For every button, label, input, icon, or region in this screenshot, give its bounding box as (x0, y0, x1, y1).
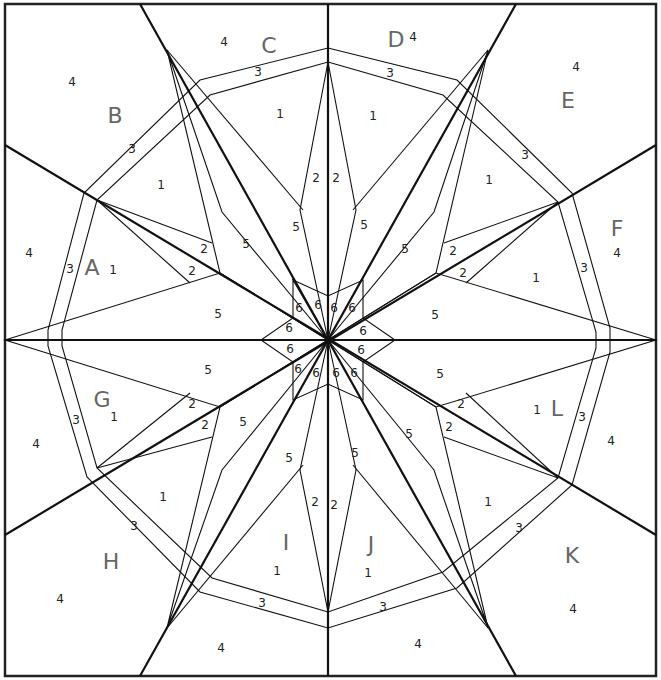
piece-number: 5 (239, 416, 247, 428)
section-label: D (388, 29, 405, 51)
piece-number: 5 (431, 309, 439, 321)
piece-number: 1 (159, 491, 167, 503)
piece-number: 6 (348, 302, 356, 314)
piece-number: 5 (401, 243, 409, 255)
piece-number: 4 (607, 435, 615, 447)
piece-number: 2 (457, 398, 465, 410)
piece-number: 3 (128, 143, 136, 155)
section-label: G (93, 389, 110, 411)
piece-number: 1 (109, 264, 117, 276)
piece-number: 2 (201, 419, 209, 431)
piece-number: 6 (285, 322, 293, 334)
piece-number: 2 (188, 398, 196, 410)
piece-number: 3 (386, 67, 394, 79)
piece-number: 3 (580, 262, 588, 274)
piece-number: 6 (294, 363, 302, 375)
section-seams (5, 4, 656, 676)
piece-number: 2 (200, 243, 208, 255)
piece-number: 3 (521, 149, 529, 161)
piece-number: 2 (311, 496, 319, 508)
piece-number: 1 (276, 108, 284, 120)
piece-number: 4 (220, 36, 228, 48)
piece-number: 6 (330, 302, 338, 314)
section-label: E (561, 90, 575, 112)
section-label: J (368, 534, 375, 556)
piece-number: 2 (188, 265, 196, 277)
piece-number: 6 (357, 344, 365, 356)
piece-number: 4 (409, 31, 417, 43)
piece-number: 1 (273, 565, 281, 577)
piece-number: 2 (312, 172, 320, 184)
piece-number: 5 (242, 238, 250, 250)
section-label: A (84, 257, 99, 279)
section-label: K (565, 545, 579, 567)
section-label: B (107, 105, 122, 127)
piece-number: 6 (295, 302, 303, 314)
piece-number: 6 (312, 367, 320, 379)
piece-number: 2 (449, 245, 457, 257)
piece-number: 6 (350, 367, 358, 379)
piece-number: 5 (436, 368, 444, 380)
piece-number: 3 (130, 520, 138, 532)
piece-number: 1 (157, 179, 165, 191)
piece-number: 5 (285, 452, 293, 464)
piece-number: 4 (572, 61, 580, 73)
piece-number: 4 (32, 438, 40, 450)
section-label: I (283, 532, 290, 554)
piece-number: 2 (330, 499, 338, 511)
piece-number: 4 (56, 593, 64, 605)
section-label: L (551, 398, 563, 420)
piece-number: 5 (360, 219, 368, 231)
piece-number: 3 (515, 522, 523, 534)
piece-number: 1 (533, 404, 541, 416)
piece-number: 5 (214, 308, 222, 320)
piece-number: 4 (569, 603, 577, 615)
piece-number: 1 (485, 174, 493, 186)
piece-number: 3 (379, 601, 387, 613)
piece-number: 5 (351, 447, 359, 459)
piece-number: 5 (405, 428, 413, 440)
piece-number: 6 (332, 367, 340, 379)
piece-number: 6 (359, 325, 367, 337)
piece-number: 4 (217, 642, 225, 654)
piece-number: 3 (254, 66, 262, 78)
piece-number: 4 (613, 247, 621, 259)
piece-number: 5 (292, 221, 300, 233)
piece-number: 3 (72, 414, 80, 426)
piece-seams (5, 48, 656, 628)
piece-number: 3 (258, 597, 266, 609)
piece-number: 6 (314, 299, 322, 311)
piece-number: 1 (532, 272, 540, 284)
piece-number: 1 (364, 567, 372, 579)
section-label: F (611, 218, 624, 240)
piece-number: 1 (369, 110, 377, 122)
section-label: C (261, 35, 276, 57)
piece-number: 6 (286, 343, 294, 355)
section-label: H (103, 551, 120, 573)
piece-number: 1 (484, 496, 492, 508)
piece-number: 2 (445, 421, 453, 433)
piece-number: 2 (332, 172, 340, 184)
piece-number: 3 (66, 263, 74, 275)
piece-number: 1 (110, 411, 118, 423)
piece-number: 4 (68, 76, 76, 88)
piece-number: 3 (578, 411, 586, 423)
quilt-diagram: ABCDEFGHIJKL4444444444443333333333331111… (0, 0, 661, 680)
piece-number: 4 (414, 638, 422, 650)
piece-number: 2 (459, 267, 467, 279)
piece-number: 5 (204, 364, 212, 376)
piece-number: 4 (25, 247, 33, 259)
